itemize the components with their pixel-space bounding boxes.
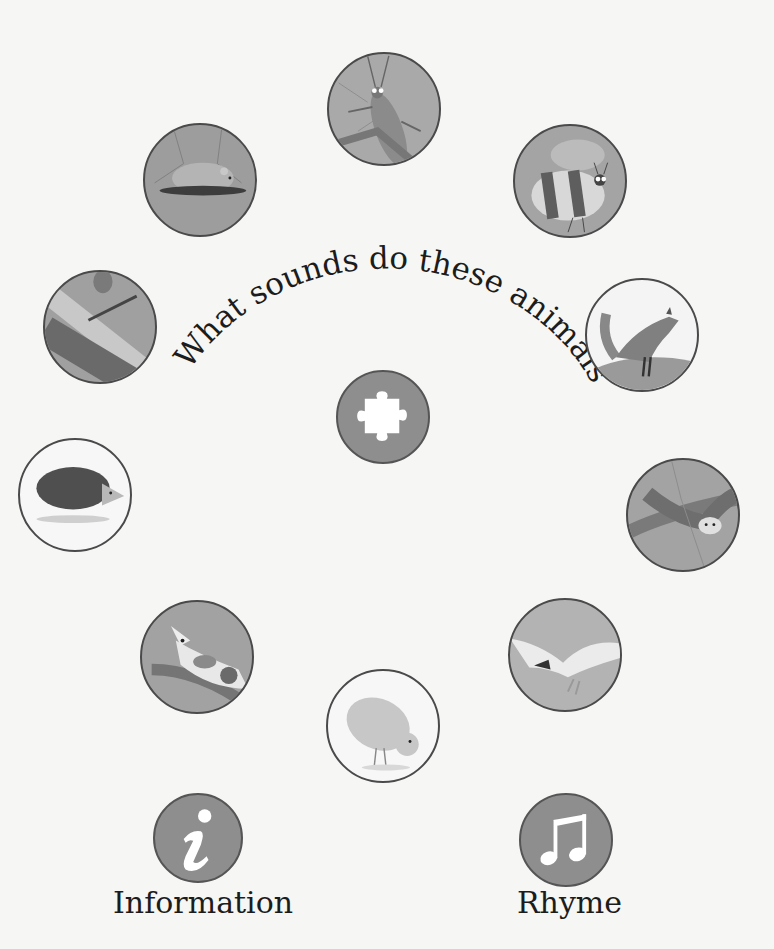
dog-image [142, 602, 252, 712]
music-note-icon [521, 793, 611, 887]
information-label[interactable]: Information [113, 885, 293, 920]
rhyme-label[interactable]: Rhyme [517, 885, 622, 920]
animal-owl-button[interactable] [626, 458, 740, 572]
frog-image [45, 272, 155, 382]
hedgehog-image [20, 440, 130, 550]
rhyme-button[interactable] [519, 793, 613, 887]
fox-image [587, 280, 697, 390]
information-button[interactable] [153, 793, 243, 883]
info-icon [155, 793, 241, 883]
animal-fox-button[interactable] [585, 278, 699, 392]
animal-chick-button[interactable] [326, 669, 440, 783]
seagull-image [510, 600, 620, 710]
animal-seagull-button[interactable] [508, 598, 622, 712]
animal-grasshopper-button[interactable] [327, 52, 441, 166]
animal-mouse-button[interactable] [143, 123, 257, 237]
animal-hedgehog-button[interactable] [18, 438, 132, 552]
mouse-image [145, 125, 255, 235]
grasshopper-image [329, 54, 439, 164]
puzzle-piece-icon [338, 370, 428, 464]
animal-bee-button[interactable] [513, 124, 627, 238]
owl-image [628, 460, 738, 570]
puzzle-button[interactable] [336, 370, 430, 464]
animal-frog-button[interactable] [43, 270, 157, 384]
bee-image [515, 126, 625, 236]
chick-image [328, 671, 438, 781]
animal-dog-button[interactable] [140, 600, 254, 714]
